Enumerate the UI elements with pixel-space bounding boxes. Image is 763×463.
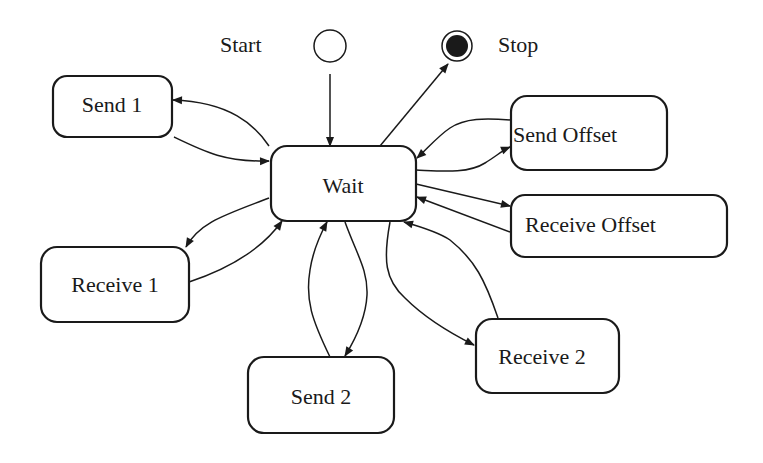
edge-sendoffset-to-wait (417, 119, 510, 158)
edge-wait-to-send1 (173, 100, 269, 146)
state-wait: Wait (271, 146, 416, 221)
state-send-offset: Send Offset (511, 96, 667, 170)
edge-wait-to-receive1 (186, 198, 269, 247)
edge-send1-to-wait (174, 137, 269, 161)
edge-receive1-to-wait (189, 221, 282, 282)
state-wait-label: Wait (323, 173, 364, 198)
state-diagram: Start Stop (0, 0, 763, 463)
state-send-offset-label: Send Offset (513, 122, 617, 147)
start-state: Start (220, 30, 346, 62)
stop-inner-dot-icon (446, 35, 468, 57)
state-receive2-label: Receive 2 (498, 344, 585, 369)
edge-wait-to-stop (380, 64, 448, 146)
start-label: Start (220, 32, 262, 57)
state-receive-offset: Receive Offset (511, 195, 727, 257)
edge-receive2-to-wait (404, 222, 498, 318)
state-receive-offset-label: Receive Offset (525, 212, 656, 237)
edge-wait-to-send2 (345, 222, 367, 356)
start-circle-icon (314, 30, 346, 62)
state-send1: Send 1 (53, 76, 172, 137)
state-receive1: Receive 1 (41, 247, 189, 322)
stop-state: Stop (442, 31, 538, 61)
state-send1-label: Send 1 (82, 92, 143, 117)
state-receive1-label: Receive 1 (71, 272, 158, 297)
edge-wait-to-sendoffset (416, 147, 510, 171)
stop-label: Stop (498, 32, 538, 57)
state-send2: Send 2 (248, 357, 394, 433)
state-receive2: Receive 2 (476, 319, 619, 393)
edge-wait-to-receive2 (386, 222, 474, 345)
edge-send2-to-wait (308, 222, 330, 357)
state-send2-label: Send 2 (291, 384, 352, 409)
